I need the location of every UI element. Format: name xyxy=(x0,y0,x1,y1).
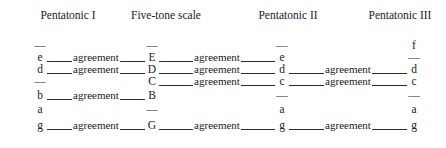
agreement-label: agreement xyxy=(324,74,372,88)
note-pentatonic-2: g xyxy=(279,118,285,132)
connector-rule-right xyxy=(241,85,275,86)
column-header-pentatonic-3: Pentatonic III xyxy=(369,8,432,22)
table-row: a—aa xyxy=(0,102,446,116)
note-pentatonic-3: a xyxy=(411,102,416,116)
agreement-label: agreement xyxy=(193,118,241,132)
absent-note-pentatonic-3: — xyxy=(408,88,420,102)
note-pentatonic-3: c xyxy=(411,74,416,88)
note-five-tone: G xyxy=(148,118,156,132)
connector-rule-left xyxy=(47,99,72,100)
agreement-label: agreement xyxy=(72,88,120,102)
agreement-connector: agreement xyxy=(47,88,145,102)
table-row: agreementagreement—Ccc xyxy=(0,74,446,88)
connector-rule-left xyxy=(159,85,193,86)
table-header-row: Pentatonic IFive-tone scalePentatonic II… xyxy=(0,8,446,26)
agreement-connector: agreement xyxy=(289,118,407,132)
table-body: ———fagreementagreementeEe—agreementagree… xyxy=(0,32,446,148)
agreement-label: agreement xyxy=(193,74,241,88)
table-row: agreementbB—— xyxy=(0,88,446,102)
agreement-label: agreement xyxy=(72,118,120,132)
connector-rule-left xyxy=(159,129,193,130)
note-pentatonic-1: a xyxy=(37,102,42,116)
table-row: agreementagreementagreementgGgg xyxy=(0,118,446,132)
note-pentatonic-2: c xyxy=(279,74,284,88)
column-header-pentatonic-2: Pentatonic II xyxy=(258,8,317,22)
connector-rule-right xyxy=(120,129,145,130)
note-pentatonic-1: g xyxy=(37,118,43,132)
note-pentatonic-2: a xyxy=(279,102,284,116)
column-header-five-tone: Five-tone scale xyxy=(131,8,201,22)
note-pentatonic-1: b xyxy=(37,88,43,102)
connector-rule-left xyxy=(289,85,324,86)
connector-rule-right xyxy=(372,129,407,130)
column-header-pentatonic-1: Pentatonic I xyxy=(40,8,95,22)
absent-note-five-tone: — xyxy=(146,102,158,116)
connector-rule-right xyxy=(241,129,275,130)
agreement-connector: agreement xyxy=(47,118,145,132)
connector-rule-right xyxy=(120,99,145,100)
note-pentatonic-3: g xyxy=(411,118,417,132)
absent-note-pentatonic-2: — xyxy=(276,88,288,102)
note-five-tone: B xyxy=(148,88,156,102)
agreement-connector: agreement xyxy=(159,74,275,88)
note-five-tone: C xyxy=(148,74,156,88)
scale-comparison-table: Pentatonic IFive-tone scalePentatonic II… xyxy=(0,0,446,148)
connector-rule-left xyxy=(47,129,72,130)
agreement-connector: agreement xyxy=(159,118,275,132)
connector-rule-right xyxy=(372,85,407,86)
absent-note-pentatonic-1: — xyxy=(34,74,46,88)
connector-rule-left xyxy=(289,129,324,130)
agreement-label: agreement xyxy=(324,118,372,132)
agreement-connector: agreement xyxy=(289,74,407,88)
